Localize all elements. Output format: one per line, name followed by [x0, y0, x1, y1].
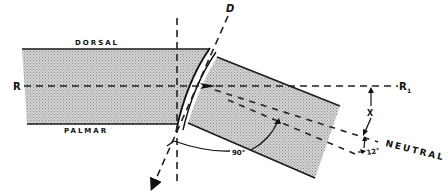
- hand-segment: [188, 57, 340, 178]
- x-label: X: [367, 109, 374, 118]
- angle-90-label: 90°: [232, 149, 245, 157]
- r1-subscript: 1: [407, 87, 411, 94]
- neutral-label: NEUTRAL: [385, 138, 446, 162]
- d-label: D: [226, 3, 234, 14]
- palmar-label: PALMAR: [64, 127, 108, 135]
- dorsal-label: DORSAL: [75, 39, 119, 47]
- joint-angle-diagram: DORSAL PALMAR R R 1 D X NEUTRAL 12° 90°: [0, 0, 448, 194]
- r1-label: R: [399, 81, 407, 92]
- angle-12-label: 12°: [366, 147, 380, 157]
- r-label: R: [13, 81, 21, 92]
